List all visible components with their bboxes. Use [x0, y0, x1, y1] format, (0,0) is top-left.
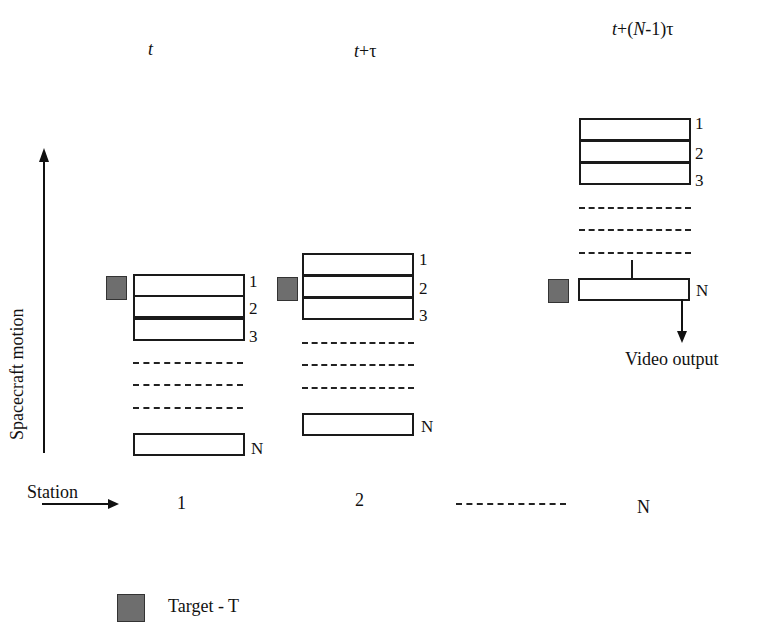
- station-ellipsis-dash: [456, 503, 566, 505]
- row-label: 3: [695, 172, 704, 189]
- detector-row-3: [133, 318, 245, 341]
- video-output-arrow-icon: [675, 299, 689, 345]
- time-close: -1)τ: [645, 19, 673, 39]
- time-label-t-plus-tau: t+τ: [354, 42, 376, 60]
- target-marker: [106, 276, 127, 300]
- row-label: 1: [695, 115, 704, 132]
- time-label-t-plus-n-minus-1-tau: t+(N-1)τ: [612, 20, 673, 38]
- row-label: N: [251, 440, 263, 457]
- station-number-n: N: [637, 498, 650, 516]
- row-label: 3: [249, 328, 258, 345]
- legend-label: Target - T: [168, 597, 239, 615]
- row-label: N: [696, 282, 708, 299]
- axis-label: Spacecraft motion: [8, 309, 26, 440]
- row-label: 1: [249, 273, 258, 290]
- ellipsis-dash: [579, 207, 691, 209]
- detector-row-2: [302, 275, 414, 298]
- row-label: 3: [419, 307, 428, 324]
- ellipsis-dash: [579, 229, 691, 231]
- detector-row-n: [133, 433, 245, 456]
- ellipsis-dash: [133, 384, 243, 386]
- target-marker: [548, 279, 569, 303]
- ellipsis-dash: [302, 364, 414, 366]
- ellipsis-dash: [133, 407, 243, 409]
- row-label: N: [421, 418, 433, 435]
- time-open: +(: [617, 19, 633, 39]
- station-number-2: 2: [355, 491, 364, 509]
- row-label: 2: [695, 145, 704, 162]
- accumulator-connector: [631, 260, 633, 278]
- target-marker: [277, 277, 298, 301]
- ellipsis-dash: [579, 252, 691, 254]
- time-offset: +τ: [359, 41, 376, 61]
- ellipsis-dash: [302, 342, 414, 344]
- detector-row-2: [579, 140, 691, 163]
- video-output-label: Video output: [625, 350, 718, 368]
- spacecraft-motion-arrow-icon: [36, 148, 52, 453]
- ellipsis-dash: [133, 362, 243, 364]
- row-label: 2: [249, 300, 258, 317]
- legend-target-swatch: [117, 594, 145, 622]
- detector-row-1: [579, 118, 691, 141]
- detector-row-n: [578, 278, 690, 301]
- detector-row-1: [302, 253, 414, 276]
- station-number-1: 1: [177, 494, 186, 512]
- time-label-t: t: [148, 40, 153, 58]
- detector-row-1: [133, 274, 245, 297]
- detector-row-2: [133, 295, 245, 318]
- ellipsis-dash: [302, 387, 414, 389]
- detector-row-3: [302, 297, 414, 320]
- station-arrow-icon: [42, 497, 120, 511]
- detector-row-3: [579, 162, 691, 185]
- time-n: N: [633, 19, 645, 39]
- row-label: 1: [419, 251, 428, 268]
- row-label: 2: [419, 280, 428, 297]
- detector-row-n: [302, 413, 414, 436]
